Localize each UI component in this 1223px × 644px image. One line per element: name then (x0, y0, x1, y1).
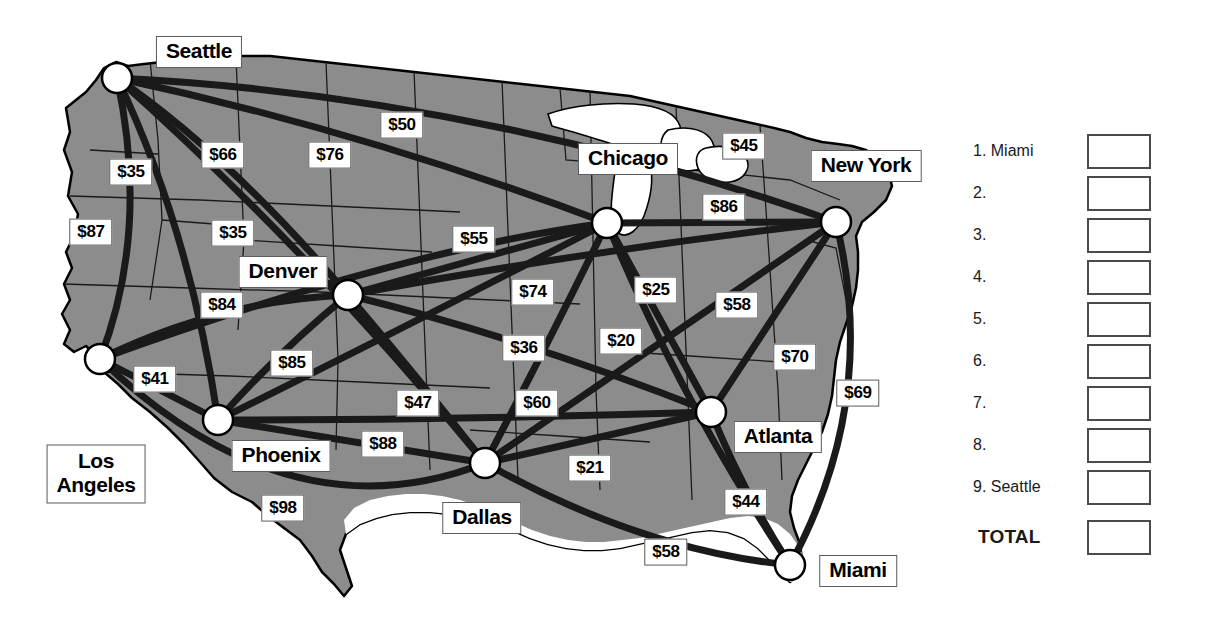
price-label-p-phoenix-dallas-alt: $88 (361, 431, 404, 458)
city-label-line2: Angeles (57, 473, 136, 497)
us-route-map: $35$87$66$76$50$45$35$55$86$84$74$25$58$… (0, 0, 950, 644)
price-label-p-dallas-atlanta: $21 (568, 455, 611, 482)
price-label-p-dallas-chicago: $74 (511, 279, 554, 306)
price-label-p-denver-phoenix: $84 (200, 292, 243, 319)
node-new-york (821, 207, 851, 237)
price-label-p-chicago-denver: $55 (452, 226, 495, 253)
node-seattle (102, 63, 132, 93)
worksheet-row: 2. (950, 173, 1223, 213)
price-label-p-chicago-newyork: $45 (722, 133, 765, 160)
worksheet-row-label: 4. (973, 268, 986, 286)
worksheet-answer-box[interactable] (1087, 260, 1151, 295)
price-label-p-atlanta-miami: $44 (724, 489, 767, 516)
price-label-p-seattle-chicago: $50 (380, 112, 423, 139)
price-label-p-atlanta-newyork-alt: $70 (773, 344, 816, 371)
worksheet-row-label: 3. (973, 226, 986, 244)
city-label-chicago: Chicago (578, 143, 678, 175)
city-label-line1: Los (57, 449, 136, 473)
city-label-miami: Miami (819, 555, 897, 587)
worksheet-answer-box[interactable] (1087, 302, 1151, 337)
price-label-p-dallas-miami: $58 (644, 539, 687, 566)
map-graphics (0, 0, 950, 644)
price-label-p-seattle-phoenix: $66 (201, 142, 244, 169)
node-atlanta (696, 397, 726, 427)
price-label-p-dallas-phoenix-alt: $47 (396, 390, 439, 417)
price-label-p-chicago-miami: $20 (599, 328, 642, 355)
price-label-p-la-phoenix: $41 (133, 366, 176, 393)
price-label-p-phoenix-dallas: $85 (270, 350, 313, 377)
price-label-p-newyork-chicago-alt: $86 (702, 194, 745, 221)
city-label-atlanta: Atlanta (734, 421, 822, 453)
price-label-p-seattle-denver: $35 (109, 159, 152, 186)
worksheet-answer-box[interactable] (1087, 134, 1151, 169)
worksheet-total-box[interactable] (1087, 520, 1151, 555)
worksheet-row: 8. (950, 425, 1223, 465)
worksheet-row: 4. (950, 257, 1223, 297)
worksheet-row-label: 6. (973, 352, 986, 370)
node-phoenix (203, 405, 233, 435)
worksheet-row: 7. (950, 383, 1223, 423)
node-chicago (592, 208, 622, 238)
worksheet-row: 6. (950, 341, 1223, 381)
price-label-p-seattle-la: $87 (69, 219, 112, 246)
worksheet-row-label: 5. (973, 310, 986, 328)
worksheet-row-label: 7. (973, 394, 986, 412)
city-label-seattle: Seattle (156, 36, 242, 68)
node-denver (333, 280, 363, 310)
price-label-p-denver-seattle-alt: $35 (211, 220, 254, 247)
node-miami (775, 550, 805, 580)
answer-worksheet: 1. Miami2.3.4.5.6.7.8.9. SeattleTOTAL (950, 0, 1223, 644)
worksheet-answer-box[interactable] (1087, 176, 1151, 211)
worksheet-row: 5. (950, 299, 1223, 339)
worksheet-row-label: 2. (973, 184, 986, 202)
worksheet-row-label: 1. Miami (973, 142, 1033, 160)
price-label-p-dallas-denver: $36 (502, 335, 545, 362)
worksheet-answer-box[interactable] (1087, 344, 1151, 379)
price-label-p-chicago-atlanta: $25 (634, 277, 677, 304)
worksheet-answer-box[interactable] (1087, 428, 1151, 463)
city-label-dallas: Dallas (442, 502, 521, 534)
price-label-p-dallas-chicago-alt: $60 (515, 390, 558, 417)
price-label-p-newyork-atlanta: $58 (715, 292, 758, 319)
city-label-phoenix: Phoenix (232, 440, 331, 472)
worksheet-row: 3. (950, 215, 1223, 255)
price-label-p-seattle-dallas: $76 (308, 142, 351, 169)
worksheet-row: 9. Seattle (950, 467, 1223, 507)
worksheet-total-label: TOTAL (978, 526, 1041, 548)
node-dallas (470, 448, 500, 478)
price-label-p-la-dallas: $98 (261, 495, 304, 522)
worksheet-answer-box[interactable] (1087, 218, 1151, 253)
worksheet-total-row: TOTAL (950, 517, 1223, 557)
city-label-los-angeles: LosAngeles (47, 444, 146, 503)
node-los-angeles (85, 344, 115, 374)
worksheet-row: 1. Miami (950, 131, 1223, 171)
city-label-new-york: New York (811, 150, 922, 182)
worksheet-row-label: 9. Seattle (973, 478, 1041, 496)
airfare-route-map-worksheet: $35$87$66$76$50$45$35$55$86$84$74$25$58$… (0, 0, 1223, 644)
worksheet-row-label: 8. (973, 436, 986, 454)
worksheet-answer-box[interactable] (1087, 386, 1151, 421)
price-label-p-miami-newyork: $69 (836, 380, 879, 407)
worksheet-answer-box[interactable] (1087, 470, 1151, 505)
city-label-denver: Denver (239, 256, 328, 288)
